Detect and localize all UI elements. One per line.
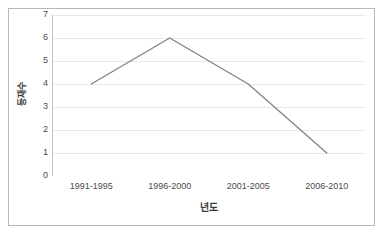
plot-area (52, 15, 366, 176)
y-axis-title: 등재수 (14, 62, 28, 124)
chart-figure: 등재수 01234567 1991-19951996-20002001-2005… (0, 0, 386, 238)
y-axis-title-text: 등재수 (15, 81, 28, 105)
y-axis-tick-label: 5 (30, 56, 48, 65)
x-axis-tick-label: 2006-2010 (305, 181, 348, 191)
data-series-group (91, 38, 327, 153)
y-axis-tick-label: 3 (30, 102, 48, 111)
y-axis-tick-label: 4 (30, 79, 48, 88)
gridlines (52, 16, 366, 177)
x-axis-tick-label: 1991-1995 (70, 181, 113, 191)
axis-lines (52, 15, 53, 176)
y-axis-tick-label: 1 (30, 148, 48, 157)
y-axis-tick-labels: 01234567 (30, 15, 48, 177)
data-line (91, 38, 327, 153)
x-axis-tick-label: 2001-2005 (227, 181, 270, 191)
line-chart-svg (52, 15, 366, 176)
y-axis-tick-label: 7 (30, 10, 48, 19)
y-axis-tick-label: 2 (30, 125, 48, 134)
x-axis-tick-label: 1996-2000 (148, 181, 191, 191)
y-axis-tick-label: 6 (30, 33, 48, 42)
x-axis-title: 년도 (52, 199, 366, 214)
y-axis-tick-label: 0 (30, 171, 48, 180)
x-axis-tick-labels: 1991-19951996-20002001-20052006-2010 (52, 181, 366, 195)
